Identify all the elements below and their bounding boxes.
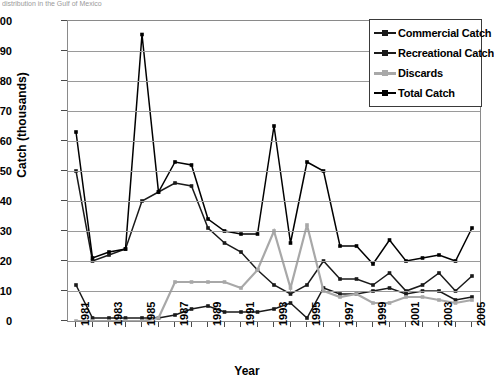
legend-item: Recreational Catch [372,43,479,63]
data-point [206,280,210,284]
y-axis-tick-label: 60 [0,136,12,146]
data-point [157,316,161,320]
legend-label: Discards [398,67,443,79]
y-axis-tick-label: 50 [0,166,12,176]
data-point [421,283,425,287]
data-point [272,283,276,287]
data-point [305,223,309,227]
data-point [388,286,392,290]
data-point [256,232,260,236]
legend-marker-icon [372,48,398,58]
data-point [437,253,441,257]
data-point [190,280,194,284]
y-axis-tick-label: 20 [0,256,12,266]
data-point [140,33,144,37]
data-point [289,241,293,245]
data-point [256,310,260,314]
y-axis-title: Catch (thousands) [15,25,29,225]
data-point [239,286,243,290]
x-axis-tick-label: 1983 [113,302,124,326]
data-point [338,295,342,299]
grid-line [68,201,480,202]
data-point [107,250,111,254]
data-point [206,226,210,230]
x-axis-tick-label: 1981 [80,302,91,326]
chart-figure: distribution in the Gulf of Mexico 01020… [0,0,494,382]
data-point [338,277,342,281]
x-axis-tick-label: 1989 [212,302,223,326]
y-axis-tick-label: 100 [0,16,12,26]
data-point [289,286,293,290]
x-axis-title: Year [0,364,494,378]
grid-line [68,111,480,112]
x-axis-tick-label: 1991 [245,302,256,326]
data-point [91,256,95,260]
data-point [74,283,78,287]
data-point [256,268,260,272]
data-point [74,319,78,321]
data-point [223,241,227,245]
x-axis-tick-label: 1985 [146,302,157,326]
y-axis-tick-label: 0 [0,316,12,326]
grid-line [68,171,480,172]
grid-line [68,231,480,232]
data-point [74,130,78,134]
y-axis-tick-label: 30 [0,226,12,236]
y-axis-tick-label: 80 [0,76,12,86]
data-point [388,301,392,305]
x-axis-tick-label: 2003 [443,302,454,326]
data-point [470,298,474,302]
data-point [124,319,128,321]
data-point [91,319,95,321]
data-point [470,274,474,278]
grid-line [68,291,480,292]
data-point [107,319,111,321]
data-point [239,310,243,314]
legend-item: Commercial Catch [372,23,479,43]
legend-item: Discards [372,63,479,83]
grid-line [68,141,480,142]
data-point [206,217,210,221]
data-point [355,292,359,296]
data-point [404,295,408,299]
data-point [437,271,441,275]
data-point [157,190,161,194]
data-point [305,160,309,164]
data-point [239,250,243,254]
x-axis-tick-label: 2005 [476,302,487,326]
y-axis: 0102030405060708090100 [0,0,67,342]
legend-marker-icon [372,68,398,78]
data-point [206,304,210,308]
x-axis-tick-label: 1987 [179,302,190,326]
data-point [239,232,243,236]
x-axis-tick-label: 1997 [344,302,355,326]
legend-label: Commercial Catch [398,27,491,39]
legend-item: Total Catch [372,83,479,103]
data-point [454,301,458,305]
data-point [371,283,375,287]
data-point [355,277,359,281]
data-point [124,247,128,251]
data-point [190,184,194,188]
data-point [223,280,227,284]
data-point [338,244,342,248]
data-point [371,262,375,266]
data-point [371,301,375,305]
grid-line [68,261,480,262]
chart-legend: Commercial CatchRecreational CatchDiscar… [369,19,482,107]
data-point [388,238,392,242]
data-point [223,310,227,314]
legend-label: Recreational Catch [398,47,494,59]
data-point [355,244,359,248]
data-point [173,160,177,164]
data-point [421,256,425,260]
data-point [190,307,194,311]
data-point [272,307,276,311]
data-point [272,124,276,128]
x-axis-labels: 1981198319851987198919911993199519971999… [0,326,494,364]
data-point [305,283,309,287]
x-axis-tick-label: 1995 [311,302,322,326]
x-axis-tick-label: 1993 [278,302,289,326]
legend-marker-icon [372,28,398,38]
data-point [437,298,441,302]
